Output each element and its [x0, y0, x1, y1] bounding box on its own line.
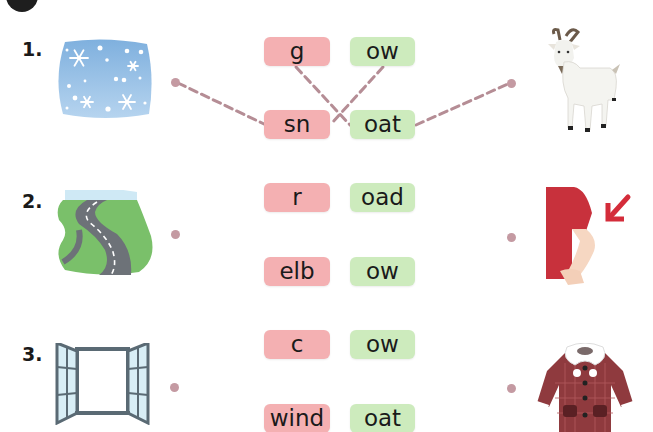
- coat-icon: [535, 343, 635, 432]
- snow-picture[interactable]: [55, 38, 155, 120]
- connect-dot-row3-left[interactable]: [170, 383, 179, 392]
- syllable-row2-left-1[interactable]: r: [264, 183, 330, 212]
- syllable-row2-right-1[interactable]: oad: [350, 183, 415, 212]
- window-icon: [55, 343, 150, 425]
- connect-dot-row3-right[interactable]: [507, 384, 516, 393]
- syllable-row3-right-1[interactable]: ow: [350, 330, 415, 359]
- syllable-row1-right-2[interactable]: oat: [350, 110, 415, 139]
- elbow-picture[interactable]: [546, 185, 636, 290]
- connect-dot-row1-right[interactable]: [507, 79, 516, 88]
- row-number-2: 2.: [22, 190, 42, 212]
- connect-dot-row2-left[interactable]: [171, 230, 180, 239]
- connect-dot-row2-right[interactable]: [507, 233, 516, 242]
- line-snow-to-sn: [178, 83, 264, 124]
- coat-picture[interactable]: [535, 343, 635, 432]
- syllable-row3-right-2[interactable]: oat: [350, 404, 415, 432]
- window-picture[interactable]: [55, 343, 150, 425]
- arrow-pointing-icon: [608, 197, 628, 219]
- line-oat-to-goat: [416, 84, 508, 125]
- syllable-row2-left-2[interactable]: elb: [264, 257, 330, 286]
- section-badge: [6, 0, 38, 12]
- elbow-icon: [546, 185, 636, 290]
- goat-picture[interactable]: [540, 28, 620, 140]
- syllable-row1-left-1[interactable]: g: [264, 37, 330, 66]
- row-number-1: 1.: [22, 38, 42, 60]
- syllable-row1-left-2[interactable]: sn: [264, 110, 330, 139]
- row-number-3: 3.: [22, 343, 42, 365]
- syllable-row3-left-2[interactable]: wind: [264, 404, 330, 432]
- syllable-row2-right-2[interactable]: ow: [350, 257, 415, 286]
- syllable-row3-left-1[interactable]: c: [264, 330, 330, 359]
- syllable-row1-right-1[interactable]: ow: [350, 37, 415, 66]
- road-picture[interactable]: [53, 190, 155, 275]
- goat-icon: [540, 28, 620, 140]
- snow-icon: [55, 38, 155, 120]
- connect-dot-row1-left[interactable]: [171, 78, 180, 87]
- road-icon: [53, 190, 155, 275]
